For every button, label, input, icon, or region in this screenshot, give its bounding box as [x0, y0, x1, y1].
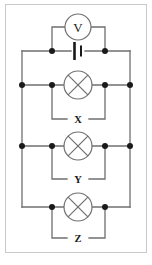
- voltmeter-label: V: [73, 20, 83, 35]
- dot-x-outer-right: [127, 82, 133, 88]
- dot-y-outer-right: [127, 143, 133, 149]
- dot-z-inner-right: [102, 204, 108, 210]
- lamp-y-label: Y: [74, 174, 82, 185]
- dot-z-inner-left: [49, 204, 55, 210]
- dot-x-outer-left: [19, 82, 25, 88]
- lamp-y-symbol: [64, 132, 92, 160]
- voltmeter-symbol: V: [65, 14, 91, 40]
- dot-x-inner-left: [49, 82, 55, 88]
- dot-y-outer-left: [19, 143, 25, 149]
- lamp-z-label: Z: [74, 233, 81, 244]
- dot-x-inner-right: [102, 82, 108, 88]
- circuit-diagram-figure: V X Y Z: [0, 0, 152, 265]
- dot-y-inner-left: [49, 143, 55, 149]
- dot-y-inner-right: [102, 143, 108, 149]
- lamp-z-symbol: [64, 193, 92, 221]
- dot-cell-left: [49, 48, 55, 54]
- dot-cell-right: [102, 48, 108, 54]
- lamp-x-symbol: [64, 71, 92, 99]
- lamp-x-label: X: [74, 114, 82, 125]
